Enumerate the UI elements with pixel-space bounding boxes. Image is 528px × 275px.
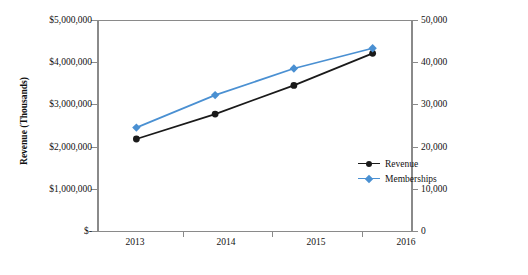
dual-axis-line-chart: $5,000,000 $4,000,000 $3,000,000 $2,000,… — [0, 0, 528, 275]
legend-label: Revenue — [385, 159, 418, 169]
legend-label: Memberships — [385, 174, 437, 184]
legend: Revenue Memberships — [358, 156, 437, 186]
data-point — [211, 91, 219, 99]
data-point — [290, 64, 298, 72]
memberships-line — [136, 48, 372, 127]
data-point — [212, 111, 219, 118]
revenue-line — [136, 53, 372, 139]
legend-item-memberships[interactable]: Memberships — [358, 171, 437, 186]
data-point — [368, 44, 376, 52]
memberships-marker-icon — [358, 174, 380, 184]
data-point — [133, 136, 140, 143]
legend-item-revenue[interactable]: Revenue — [358, 156, 437, 171]
data-point — [132, 123, 140, 131]
revenue-marker-icon — [358, 159, 380, 169]
series-layer — [0, 0, 528, 275]
data-point — [290, 82, 297, 89]
